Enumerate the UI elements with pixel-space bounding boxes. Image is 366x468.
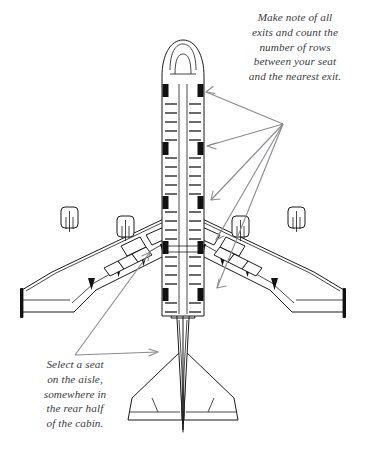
exits-note-line-3: number of rows (226, 40, 364, 55)
seat-note-line-1: Select a seat (16, 357, 134, 372)
exit-pointer-group (206, 87, 283, 289)
exits-note-line-2: exits and count the (226, 25, 364, 40)
exits-note-line-5: and the nearest exit. (226, 69, 364, 84)
seat-note-line-5: of the cabin. (16, 416, 134, 431)
seat-note: Select a seat on the aisle, somewhere in… (16, 357, 134, 431)
illustration-canvas: .ln{fill:none;stroke:#1b1b1b;stroke-widt… (0, 0, 366, 468)
seat-note-line-4: the rear half (16, 401, 134, 416)
seat-pointer-group (75, 252, 158, 356)
exits-note-line-1: Make note of all (226, 10, 364, 25)
exits-note-line-4: between your seat (226, 54, 364, 69)
seat-note-line-2: on the aisle, (16, 372, 134, 387)
seat-note-line-3: somewhere in (16, 387, 134, 402)
exits-note: Make note of all exits and count the num… (226, 10, 364, 84)
